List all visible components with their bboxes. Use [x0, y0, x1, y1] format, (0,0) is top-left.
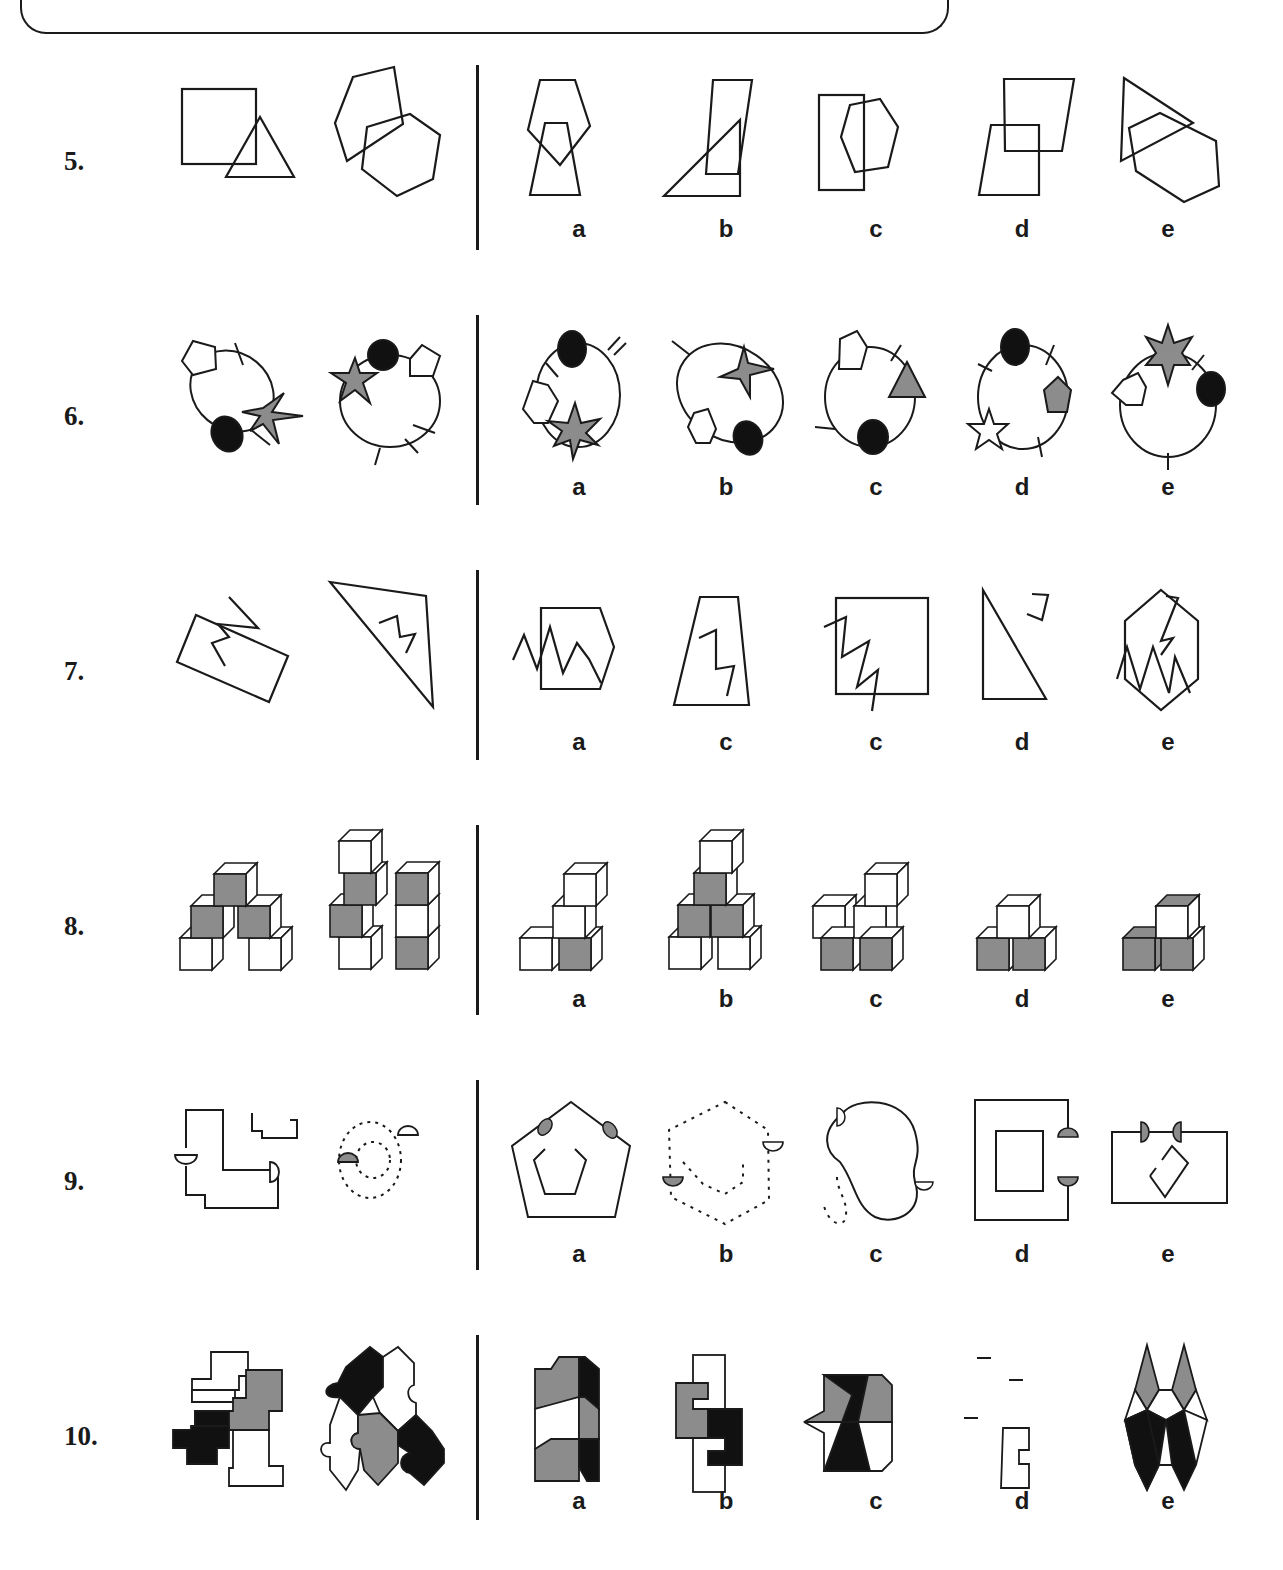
option-c-figure[interactable]	[813, 863, 933, 978]
example-figure-2	[318, 1345, 453, 1495]
question-divider	[476, 65, 479, 250]
example-figure-1	[180, 863, 300, 978]
option-e-label: e	[1148, 728, 1188, 756]
option-d-figure[interactable]	[968, 327, 1078, 457]
option-b-label: b	[706, 1240, 746, 1268]
option-d-label: d	[1002, 473, 1042, 501]
option-e-figure[interactable]	[1123, 895, 1223, 980]
option-d-label: d	[1002, 728, 1042, 756]
question-divider	[476, 1080, 479, 1270]
question-divider	[476, 1335, 479, 1520]
option-c-figure[interactable]	[804, 1375, 934, 1480]
option-c-figure[interactable]	[815, 327, 935, 457]
question-number: 6.	[64, 401, 84, 432]
option-e-label: e	[1148, 985, 1188, 1013]
example-figure-2	[338, 1100, 428, 1215]
question-number: 8.	[64, 911, 84, 942]
option-a-label: a	[559, 1240, 599, 1268]
option-e-figure[interactable]	[1117, 589, 1227, 719]
question-number: 9.	[64, 1166, 84, 1197]
option-d-label: d	[1002, 985, 1042, 1013]
option-e-figure[interactable]	[1125, 1345, 1215, 1495]
example-figure-1	[177, 597, 297, 707]
option-c-label: c	[856, 728, 896, 756]
option-c-label: c	[856, 985, 896, 1013]
example-figure-2	[335, 65, 445, 215]
example-figure-1	[180, 333, 310, 453]
example-figure-1	[180, 85, 300, 185]
option-a-label: a	[559, 985, 599, 1013]
option-c-label: c	[856, 473, 896, 501]
option-b-figure[interactable]	[674, 595, 784, 710]
option-e-figure[interactable]	[1110, 1120, 1230, 1210]
header-box	[20, 0, 949, 34]
option-d-figure[interactable]	[977, 895, 1077, 980]
option-b-figure[interactable]	[662, 80, 792, 200]
question-number: 5.	[64, 146, 84, 177]
option-d-figure[interactable]	[973, 1100, 1083, 1225]
option-a-label: a	[559, 1487, 599, 1515]
question-divider	[476, 315, 479, 505]
option-e-figure[interactable]	[1121, 78, 1226, 208]
option-d-label: d	[1002, 1240, 1042, 1268]
question-number: 10.	[64, 1421, 98, 1452]
option-d-figure[interactable]	[978, 78, 1078, 203]
option-c-label: c	[856, 1487, 896, 1515]
option-c-figure[interactable]	[815, 1102, 945, 1227]
option-b-figure[interactable]	[669, 830, 789, 980]
option-a-figure[interactable]	[510, 1102, 640, 1222]
option-b-label: b	[706, 473, 746, 501]
option-d-label: d	[1002, 215, 1042, 243]
option-a-figure[interactable]	[535, 1355, 625, 1495]
option-a-figure[interactable]	[518, 325, 628, 465]
question-divider	[476, 570, 479, 760]
option-d-figure[interactable]	[982, 589, 1082, 704]
option-c-figure[interactable]	[824, 597, 934, 717]
option-e-figure[interactable]	[1108, 325, 1228, 465]
option-a-label: a	[559, 473, 599, 501]
option-e-label: e	[1148, 1240, 1188, 1268]
option-e-label: e	[1148, 473, 1188, 501]
option-e-label: e	[1148, 215, 1188, 243]
option-a-figure[interactable]	[513, 605, 628, 705]
option-b-figure[interactable]	[672, 333, 792, 453]
option-a-label: a	[559, 728, 599, 756]
option-c-label: c	[856, 215, 896, 243]
option-b-label: b	[706, 1487, 746, 1515]
option-b-label: b	[706, 215, 746, 243]
option-a-label: a	[559, 215, 599, 243]
example-figure-1	[173, 1350, 308, 1490]
option-d-figure[interactable]	[963, 1348, 1083, 1498]
option-b-figure[interactable]	[676, 1355, 776, 1495]
option-b-label: c	[706, 728, 746, 756]
option-d-label: d	[1002, 1487, 1042, 1515]
example-figure-1	[175, 1110, 305, 1215]
option-a-figure[interactable]	[520, 863, 630, 978]
option-b-figure[interactable]	[663, 1102, 793, 1227]
example-figure-2	[330, 830, 460, 980]
option-a-figure[interactable]	[527, 78, 622, 198]
option-c-figure[interactable]	[818, 95, 938, 195]
option-b-label: b	[706, 985, 746, 1013]
example-figure-2	[330, 582, 445, 712]
question-number: 7.	[64, 656, 84, 687]
option-e-label: e	[1148, 1487, 1188, 1515]
example-figure-2	[325, 333, 455, 453]
question-divider	[476, 825, 479, 1015]
option-c-label: c	[856, 1240, 896, 1268]
